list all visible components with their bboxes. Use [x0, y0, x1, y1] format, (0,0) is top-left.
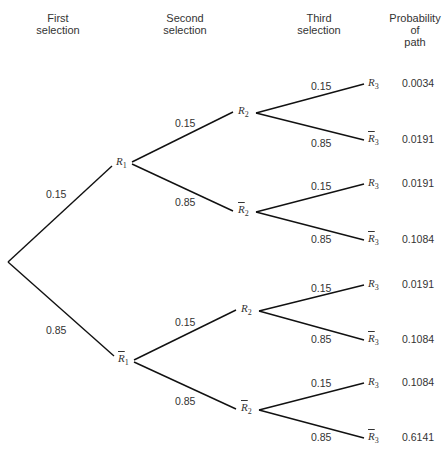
edge-label-l3: 0.85 — [311, 333, 331, 345]
leaf-r3: R3 — [368, 277, 379, 292]
node-subscript: 1 — [125, 358, 129, 367]
edge-label-l3: 0.15 — [311, 282, 331, 294]
edge-label-l3: 0.15 — [311, 180, 331, 192]
edge-label-l3: 0.85 — [311, 431, 331, 443]
node-subscript: 3 — [375, 182, 379, 191]
node-subscript: 3 — [375, 338, 379, 347]
path-probability: 0.1084 — [402, 333, 434, 345]
node-subscript: 2 — [245, 209, 249, 218]
node-subscript: 3 — [375, 138, 379, 147]
node-r2-lower: R2 — [241, 302, 252, 317]
leaf-r3-bar: R3 — [368, 332, 379, 347]
edge-label-l2: 0.15 — [175, 117, 195, 129]
leaf-r3: R3 — [368, 375, 379, 390]
leaf-r3-bar: R3 — [368, 232, 379, 247]
edge-label-l1-r1: 0.15 — [46, 188, 66, 200]
path-probability: 0.0191 — [402, 278, 434, 290]
node-subscript: 3 — [375, 238, 379, 247]
edge-label-l2: 0.85 — [175, 395, 195, 407]
node-subscript: 1 — [123, 161, 127, 170]
path-probability: 0.0034 — [402, 77, 434, 89]
leaf-r3-bar: R3 — [368, 132, 379, 147]
path-probability: 0.1084 — [402, 376, 434, 388]
node-r1-bar: R1 — [118, 352, 129, 367]
path-probability: 0.6141 — [402, 431, 434, 443]
node-subscript: 2 — [248, 407, 252, 416]
leaf-r3: R3 — [368, 76, 379, 91]
node-subscript: 3 — [375, 436, 379, 445]
node-subscript: 3 — [375, 283, 379, 292]
node-subscript: 2 — [248, 308, 252, 317]
node-r2-bar-lower: R2 — [241, 401, 252, 416]
node-r2-upper: R2 — [238, 104, 249, 119]
path-probability: 0.1084 — [402, 233, 434, 245]
leaf-r3: R3 — [368, 176, 379, 191]
edge-label-l3: 0.15 — [311, 80, 331, 92]
edge-label-l1-r1bar: 0.85 — [46, 324, 66, 336]
leaf-r3-bar: R3 — [368, 430, 379, 445]
path-probability: 0.0191 — [402, 133, 434, 145]
edge-label-l3: 0.85 — [311, 137, 331, 149]
edge-label-l3: 0.85 — [311, 233, 331, 245]
path-probability: 0.0191 — [402, 177, 434, 189]
edge-label-l3: 0.15 — [311, 377, 331, 389]
node-subscript: 3 — [375, 381, 379, 390]
edge-label-l2: 0.85 — [175, 196, 195, 208]
node-r2-bar-upper: R2 — [238, 203, 249, 218]
node-subscript: 3 — [375, 82, 379, 91]
edge-label-l2: 0.15 — [175, 316, 195, 328]
node-r1: R1 — [116, 155, 127, 170]
node-subscript: 2 — [245, 110, 249, 119]
